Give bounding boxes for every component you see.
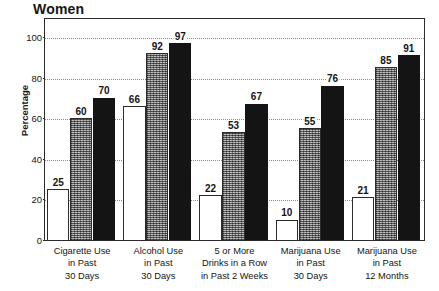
x-category-line: Drinks in a Row: [201, 257, 268, 269]
bar-value-label-series-1-group-5: 21: [356, 185, 369, 196]
bar-value-label-series-1-group-3: 22: [204, 183, 217, 194]
bar-value-label-series-3-group-1: 70: [97, 85, 110, 96]
bar-series-1-group-2: [123, 106, 145, 240]
bar-value-label-series-2-group-3: 53: [227, 120, 240, 131]
bar-value-label-series-3-group-2: 97: [174, 31, 187, 42]
y-tick-label-40: 40: [16, 153, 42, 164]
y-tick-label-100: 100: [16, 32, 42, 43]
x-category-line: 12 Months: [357, 270, 417, 282]
x-category-label-4: Marijuana Usein Past30 Days: [281, 245, 341, 282]
bar-series-2-group-3: [222, 132, 244, 240]
bar-series-2-group-2: [146, 53, 168, 240]
x-category-line: in Past: [54, 257, 111, 269]
bar-series-1-group-4: [276, 220, 298, 240]
x-category-line: 30 Days: [133, 270, 183, 282]
bar-value-label-series-3-group-3: 67: [250, 91, 263, 102]
bar-value-label-series-3-group-4: 76: [326, 73, 339, 84]
bar-series-3-group-5: [398, 55, 420, 240]
x-category-line: Marijuana Use: [281, 245, 341, 257]
bar-series-2-group-4: [299, 128, 321, 240]
chart-title: Women: [33, 0, 84, 18]
bar-value-label-series-1-group-2: 66: [128, 94, 141, 105]
bar-value-label-series-2-group-4: 55: [303, 116, 316, 127]
bars-layer: 256070669297225367105576218591: [44, 18, 425, 241]
x-category-line: Alcohol Use: [133, 245, 183, 257]
bar-series-1-group-1: [47, 189, 69, 240]
x-category-line: in Past 2 Weeks: [201, 270, 268, 282]
bar-value-label-series-2-group-2: 92: [151, 41, 164, 52]
bar-series-3-group-2: [169, 43, 191, 240]
x-category-line: in Past: [281, 257, 341, 269]
x-category-line: Marijuana Use: [357, 245, 417, 257]
y-tick-label-20: 20: [16, 194, 42, 205]
x-category-line: 5 or More: [201, 245, 268, 257]
bar-series-1-group-5: [352, 197, 374, 240]
y-tick-label-80: 80: [16, 72, 42, 83]
bar-series-3-group-4: [321, 86, 343, 240]
bar-series-3-group-3: [245, 104, 267, 240]
x-category-label-1: Cigarette Usein Past30 Days: [54, 245, 111, 282]
bar-value-label-series-1-group-4: 10: [280, 207, 293, 218]
x-category-line: in Past: [133, 257, 183, 269]
x-category-line: in Past: [357, 257, 417, 269]
chart-figure: Women Percentage 020406080100 2560706692…: [0, 0, 439, 291]
x-category-label-3: 5 or MoreDrinks in a Rowin Past 2 Weeks: [201, 245, 268, 282]
bar-value-label-series-2-group-5: 85: [379, 55, 392, 66]
x-category-line: Cigarette Use: [54, 245, 111, 257]
bar-series-3-group-1: [93, 98, 115, 240]
bar-value-label-series-3-group-5: 91: [402, 43, 415, 54]
bar-value-label-series-2-group-1: 60: [75, 106, 88, 117]
bar-series-2-group-5: [375, 67, 397, 240]
x-category-line: 30 Days: [54, 270, 111, 282]
x-axis-category-labels: Cigarette Usein Past30 DaysAlcohol Usein…: [44, 245, 425, 289]
x-category-label-2: Alcohol Usein Past30 Days: [133, 245, 183, 282]
bar-series-2-group-1: [70, 118, 92, 240]
bar-series-1-group-3: [199, 195, 221, 240]
x-category-label-5: Marijuana Usein Past12 Months: [357, 245, 417, 282]
y-axis-ticks: 020406080100: [10, 18, 42, 241]
bar-value-label-series-1-group-1: 25: [52, 177, 65, 188]
x-category-line: 30 Days: [281, 270, 341, 282]
y-tick-label-0: 0: [16, 235, 42, 246]
y-tick-label-60: 60: [16, 113, 42, 124]
